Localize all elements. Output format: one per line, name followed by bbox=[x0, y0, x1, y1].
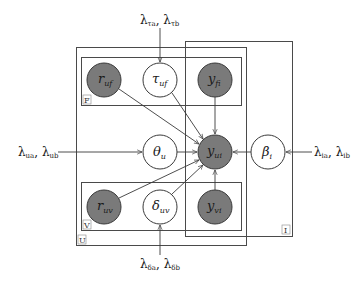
plate-i-label: I bbox=[284, 226, 287, 235]
hyper-tau-label: λτa, λτb bbox=[140, 13, 180, 28]
hyper-beta-label: λia, λib bbox=[314, 145, 351, 160]
edge-tau_uf-y_ui bbox=[172, 93, 203, 139]
plate-v-label: V bbox=[83, 221, 90, 230]
node-r_uf: ruf bbox=[87, 63, 121, 97]
plate-u-label: U bbox=[79, 236, 86, 245]
hyper-delta-label: λδa, λδb bbox=[140, 257, 180, 272]
hyper-theta-label: λua, λub bbox=[18, 145, 59, 160]
graphical-model-diagram: U F V I ruf τuf bbox=[0, 0, 364, 289]
node-y_ui: yui bbox=[198, 135, 232, 169]
node-theta_u: θu bbox=[143, 135, 177, 169]
plate-f-label: F bbox=[84, 96, 90, 105]
edge-delta_uv-y_ui bbox=[172, 165, 203, 194]
node-beta_i: βi bbox=[251, 135, 285, 169]
node-tau_uf: τuf bbox=[143, 63, 177, 97]
node-y_fi: yfi bbox=[198, 63, 232, 97]
node-r_uv: ruv bbox=[87, 190, 121, 224]
node-delta_uv: δuv bbox=[143, 190, 177, 224]
node-y_vi: yvi bbox=[198, 190, 232, 224]
